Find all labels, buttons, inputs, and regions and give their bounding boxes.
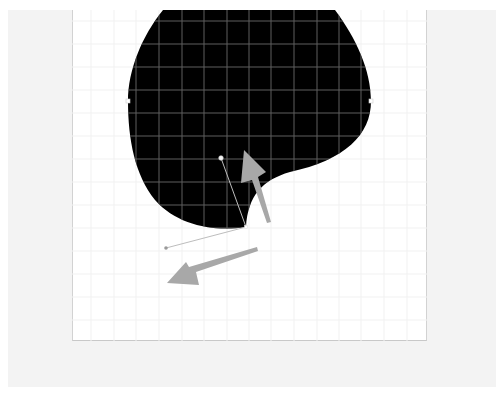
arrow-down-left-icon: [167, 247, 258, 285]
bezier-handle-lower-line: [166, 227, 246, 248]
right-anchor-point[interactable]: [369, 99, 373, 103]
bezier-handle-upper-point[interactable]: [219, 156, 224, 161]
canvas-scene[interactable]: [0, 0, 504, 395]
bezier-handle-lower-point[interactable]: [164, 246, 168, 250]
left-anchor-point[interactable]: [126, 99, 130, 103]
bottom-cusp-anchor-point[interactable]: [245, 226, 248, 229]
